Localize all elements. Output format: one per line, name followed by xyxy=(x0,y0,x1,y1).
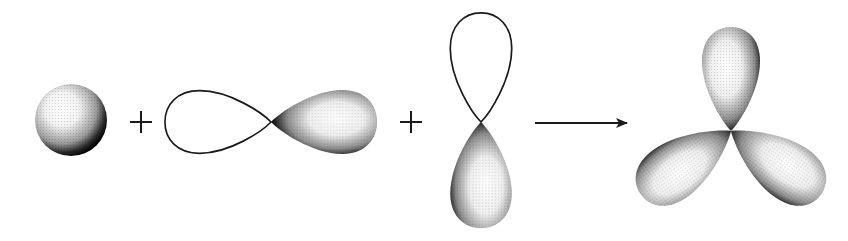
plus-sign-icon xyxy=(130,111,152,133)
px-shaded-lobe xyxy=(271,90,377,154)
plus-sign-icon xyxy=(400,111,422,133)
py-unshaded-lobe xyxy=(450,13,511,122)
sp2-lobe-top xyxy=(702,27,760,131)
px-unshaded-lobe xyxy=(165,91,271,154)
py-orbital xyxy=(450,13,511,228)
sp2-hybrid-orbitals xyxy=(624,27,838,218)
py-shaded-lobe xyxy=(450,122,511,228)
px-orbital xyxy=(165,90,377,154)
sp2-hybridization-diagram xyxy=(0,0,848,241)
s-orbital xyxy=(35,84,107,156)
